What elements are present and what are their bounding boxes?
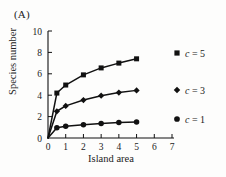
x-tick-label: 0	[46, 142, 51, 152]
data-point	[116, 89, 122, 95]
data-point	[133, 87, 139, 93]
x-tick-label: 7	[170, 142, 175, 152]
legend-marker-c5	[174, 50, 179, 55]
x-tick-label: 1	[63, 142, 68, 152]
data-point	[63, 83, 68, 88]
data-point	[54, 125, 60, 130]
x-tick-label: 3	[99, 142, 104, 152]
y-tick-label: 10	[33, 27, 43, 37]
y-axis-ticks: 0246810	[33, 27, 53, 144]
series-line-2	[48, 90, 137, 138]
y-tick-label: 0	[37, 134, 42, 144]
legend-item-c5: c = 5	[185, 48, 205, 59]
x-tick-label: 4	[116, 142, 121, 152]
y-tick-label: 4	[37, 91, 42, 101]
legend-item-c5-value: = 5	[192, 48, 205, 59]
figure-panel-a: (A) Species number Island area 01234567 …	[0, 0, 226, 177]
y-tick-label: 8	[37, 48, 42, 58]
data-point	[63, 123, 69, 129]
series-line-3	[48, 122, 137, 138]
data-point	[116, 61, 121, 66]
data-point	[134, 119, 140, 125]
x-tick-label: 5	[134, 142, 139, 152]
data-point	[81, 122, 87, 128]
data-point	[80, 97, 86, 103]
data-point	[99, 65, 104, 70]
data-point	[54, 91, 59, 96]
data-point	[98, 121, 104, 127]
data-point	[116, 120, 122, 126]
data-point	[98, 93, 104, 99]
y-tick-label: 2	[37, 112, 42, 122]
legend-item-c1-value: = 1	[192, 114, 205, 125]
x-tick-label: 2	[81, 142, 86, 152]
legend-markers	[174, 50, 181, 121]
legend-marker-c3	[174, 87, 181, 94]
data-point	[81, 72, 86, 77]
legend-marker-c1	[174, 116, 180, 122]
legend-item-c3-value: = 3	[192, 85, 205, 96]
data-series-layer	[48, 56, 140, 138]
data-point	[134, 56, 139, 61]
x-axis-ticks: 01234567	[46, 134, 175, 152]
legend-item-c3: c = 3	[185, 85, 205, 96]
y-tick-label: 6	[37, 69, 42, 79]
legend-item-c1: c = 1	[185, 114, 205, 125]
x-tick-label: 6	[152, 142, 157, 152]
